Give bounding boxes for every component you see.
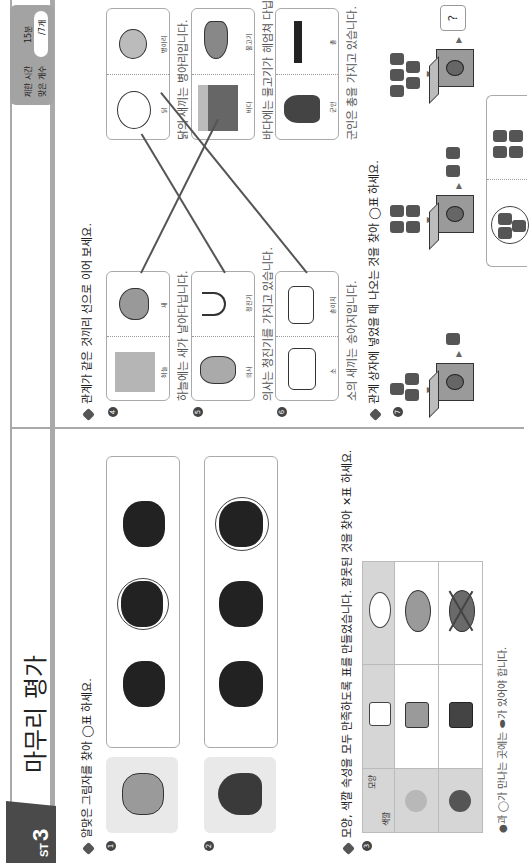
question-number-6: 6	[277, 407, 287, 417]
correct-count-label: 맞은 개수	[36, 66, 47, 97]
answer-options-box	[486, 95, 527, 267]
circle-mark-icon	[117, 578, 169, 630]
cell-bag-dark[interactable]	[439, 665, 483, 768]
attribute-table: 모양 색깔	[362, 561, 483, 833]
shadow-option-2a[interactable]	[219, 661, 263, 707]
question-number-1: 1	[106, 841, 116, 851]
car-icon	[446, 333, 460, 345]
light-color-dot	[405, 790, 427, 812]
shadow-options-card-2	[204, 456, 278, 748]
cell-plate-light[interactable]	[395, 562, 439, 665]
caption-hen: 닭의 새끼는 병아리입니다.	[174, 20, 190, 141]
cell-plate-dark-crossed[interactable]	[439, 562, 483, 665]
hen-image	[117, 91, 151, 129]
header-top-line	[10, 0, 12, 863]
caption-5: 의사는 청진기를 가지고 있습니다.	[259, 247, 275, 401]
plane-icon	[446, 147, 460, 159]
chick-image	[119, 29, 147, 59]
caption-6: 소의 새끼는 송아지입니다.	[343, 281, 359, 402]
test-tab: ST 3	[6, 801, 56, 863]
row-header-dark	[439, 768, 483, 832]
sky-image	[115, 352, 155, 392]
ship-icon	[493, 130, 507, 142]
ship-icon	[390, 53, 404, 65]
arrow-right-icon: ▶	[454, 351, 463, 357]
bag-icon	[405, 702, 429, 728]
header-plate-white	[363, 562, 395, 665]
match-card-cow-calf[interactable]: 소 송아지	[275, 271, 339, 401]
car-icon	[390, 383, 404, 395]
bag-icon	[369, 702, 391, 726]
relation-box-1	[436, 363, 474, 401]
ship-icon	[406, 61, 420, 73]
question-number-2: 2	[204, 841, 214, 851]
answer-option-1-circled[interactable]	[491, 206, 529, 244]
shadow-option-1a[interactable]	[123, 661, 165, 707]
question-shadow-prompt: 알맞은 그림자를 찾아 ◯표 하세요.	[78, 678, 94, 853]
pig-cat-image	[122, 773, 164, 815]
match-card-soldier-gun[interactable]: 군인 총	[275, 8, 339, 140]
match-card-sky-bird[interactable]: 하늘 새	[106, 271, 170, 401]
cell-bag-light[interactable]	[395, 665, 439, 768]
gun-image	[294, 21, 302, 63]
cow-image	[288, 348, 316, 390]
ship-icon	[498, 227, 512, 239]
pig-cat-reference-card	[106, 757, 178, 833]
test-label: ST	[38, 843, 50, 857]
question-number-7: 7	[393, 407, 403, 417]
ship-icon	[509, 130, 523, 142]
octopus-reference-card	[204, 757, 276, 833]
ship-icon	[509, 146, 523, 158]
ship-icon	[390, 85, 404, 97]
ship-icon	[512, 220, 526, 232]
diamond-bullet-icon	[82, 842, 95, 855]
table-hint: ●과 ◯가 만나는 곳에는 ⬬가 있어야 합니다.	[494, 647, 509, 833]
stethoscope-image	[202, 292, 226, 316]
question-number-5: 5	[193, 407, 203, 417]
plate-icon	[405, 590, 431, 632]
plane-icon	[406, 205, 420, 217]
time-limit-value: 15분	[22, 26, 33, 43]
bag-icon	[449, 702, 473, 728]
timer-box: 제한 시간 15분 맞은 개수 /7개	[10, 5, 54, 105]
shadow-options-card-1	[106, 456, 180, 748]
relation-box-3	[436, 49, 474, 87]
shadow-option-2b[interactable]	[219, 581, 263, 627]
page-title: 마무리 평가	[16, 655, 51, 773]
caption-soldier: 군인은 총을 가지고 있습니다.	[343, 6, 359, 140]
row-header-light	[395, 768, 439, 832]
table-corner-cell: 모양 색깔	[363, 768, 395, 832]
caption-sea: 바다에는 물고기가 헤엄쳐 다닙니다.	[259, 0, 275, 140]
unknown-output-box: ?	[440, 5, 466, 31]
match-card-doctor-stethoscope[interactable]: 의사 청진기	[191, 271, 255, 401]
diamond-bullet-icon	[369, 408, 382, 421]
ship-icon	[498, 213, 512, 225]
answer-option-2[interactable]	[491, 110, 525, 160]
plane-icon	[406, 221, 420, 233]
ship-icon	[493, 146, 507, 158]
dark-color-dot	[449, 790, 471, 812]
circle-mark-icon	[215, 497, 269, 551]
arrow-right-icon: ▶	[454, 37, 463, 43]
plane-icon	[390, 205, 404, 217]
doctor-image	[200, 356, 236, 384]
car-icon	[405, 389, 419, 401]
diamond-bullet-icon	[82, 408, 95, 421]
match-card-hen-chick[interactable]: 닭 병아리	[106, 8, 170, 140]
shadow-option-1c[interactable]	[123, 501, 165, 547]
time-limit-label: 제한 시간	[22, 66, 33, 97]
calf-image	[288, 286, 314, 324]
header-bag-white	[363, 665, 395, 768]
question-table-prompt: 모양, 색깔 속성을 모두 만족하도록 표를 만들었습니다. 잘못된 것을 찾아…	[338, 450, 354, 853]
soldier-image	[284, 95, 320, 123]
match-card-sea-fish[interactable]: 바다 물고기	[191, 8, 255, 140]
question-number-4: 4	[108, 407, 118, 417]
octopus-image	[218, 773, 262, 815]
bird-image	[119, 288, 149, 320]
diamond-bullet-icon	[342, 842, 355, 855]
correct-count-value: /7개	[36, 20, 47, 35]
relation-box-2	[436, 195, 474, 233]
ship-icon	[390, 69, 404, 81]
plane-icon	[446, 165, 460, 177]
